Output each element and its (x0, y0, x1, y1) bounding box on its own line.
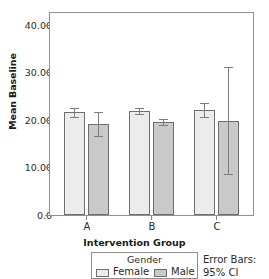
legend-swatch-male (154, 269, 167, 277)
errorbar-female-A-line (74, 108, 75, 117)
error-bars-note-line2: 95% CI (203, 266, 238, 279)
x-tick-label-C: C (202, 221, 232, 232)
bar-female-B (129, 111, 150, 215)
errorbar-male-A-line (98, 112, 99, 136)
bar-female-A (64, 112, 85, 215)
x-tick-mark-B (151, 216, 152, 220)
errorbar-male-C-cap-top (224, 67, 233, 68)
error-bars-note-line1: Error Bars: (203, 253, 256, 266)
errorbar-female-C-cap-bottom (200, 117, 209, 118)
errorbar-female-B-cap-bottom (135, 114, 144, 115)
x-tick-label-B: B (137, 221, 167, 232)
x-tick-label-A: A (72, 221, 102, 232)
bar-chart: Mean Baseline 40.00 30.00 20.00 10.00 0.… (0, 0, 269, 279)
errorbar-male-B-cap-bottom (159, 125, 168, 126)
errorbar-female-A-cap-top (70, 108, 79, 109)
legend-label-male: Male (171, 266, 195, 277)
errorbar-female-C-line (204, 103, 205, 117)
legend: Gender Female Male (91, 252, 198, 279)
errorbar-female-B-cap-top (135, 108, 144, 109)
errorbar-male-A-cap-top (94, 112, 103, 113)
x-tick-mark-C (216, 216, 217, 220)
legend-title: Gender (92, 254, 197, 265)
errorbar-female-A-cap-bottom (70, 117, 79, 118)
errorbar-male-A-cap-bottom (94, 136, 103, 137)
errorbar-male-C-cap-bottom (224, 174, 233, 175)
x-tick-mark-A (86, 216, 87, 220)
legend-label-female: Female (113, 266, 149, 277)
bar-female-C (194, 110, 215, 215)
x-axis-title: Intervention Group (0, 237, 269, 248)
errorbar-female-C-cap-top (200, 103, 209, 104)
legend-swatch-female (96, 269, 109, 277)
errorbar-male-B-cap-top (159, 119, 168, 120)
errorbar-male-C-line (228, 67, 229, 174)
bar-male-A (88, 124, 109, 215)
bar-male-B (153, 122, 174, 215)
